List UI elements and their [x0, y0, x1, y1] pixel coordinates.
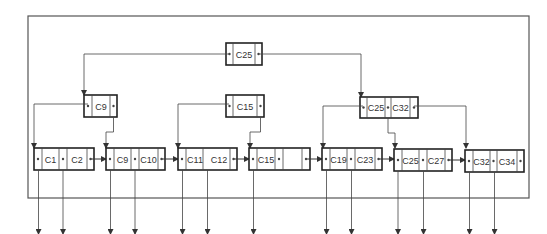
pointer-icon: [397, 159, 399, 161]
pointer-icon: [278, 158, 280, 160]
pointer-icon: [181, 158, 183, 160]
leaf-key: C10: [140, 155, 157, 165]
leaf-key: C15: [258, 155, 275, 165]
leaf-key: C32: [473, 157, 490, 167]
record-pointer-arrows: [39, 170, 495, 234]
leaf-key: C1: [45, 155, 57, 165]
pointer-icon: [519, 160, 521, 162]
edge: [178, 104, 229, 148]
pointer-icon: [259, 105, 261, 107]
pointer-icon: [112, 105, 114, 107]
leaf-key: C25: [402, 156, 419, 166]
pointer-icon: [87, 105, 89, 107]
leaf-key: C11: [187, 155, 203, 165]
root-right-edge: [259, 54, 361, 97]
root-key: C25: [236, 50, 253, 60]
edge: [323, 106, 363, 148]
node-key: C9: [95, 102, 107, 112]
leaf-key: C12: [211, 155, 228, 165]
pointer-icon: [305, 158, 307, 160]
pointer-icon: [468, 160, 470, 162]
root-left-edge: [84, 54, 229, 95]
internal-node-c25-c32: C25 C32: [360, 97, 418, 118]
pointer-icon: [134, 158, 136, 160]
leaf-key: C34: [499, 157, 516, 167]
b-plus-tree-diagram: C25 C9 C15 C25 C32: [0, 0, 547, 234]
edge: [250, 117, 261, 148]
leaf-node-2: C9 C10: [106, 148, 165, 170]
leaf-node-7: C32 C34: [465, 150, 524, 172]
edge: [106, 117, 114, 148]
leaf-node-4: C15: [249, 148, 310, 170]
pointer-icon: [362, 106, 364, 108]
pointer-icon: [387, 106, 389, 108]
pointer-icon: [252, 158, 254, 160]
leaf-node-6: C25 C27: [394, 149, 452, 171]
leaf-key: C23: [357, 155, 374, 165]
leaf-key: C27: [428, 156, 445, 166]
pointer-icon: [325, 158, 327, 160]
leaf-node-1: C1 C2: [34, 148, 94, 170]
edge: [34, 104, 88, 148]
leaf-key: C2: [71, 155, 83, 165]
leaf-key: C19: [330, 155, 347, 165]
edge: [388, 118, 395, 148]
pointer-icon: [228, 105, 230, 107]
pointer-icon: [62, 158, 64, 160]
leaf-node-3: C11 C12: [178, 148, 237, 170]
leaf-node-5: C19 C23: [322, 148, 382, 170]
node-key: C25: [368, 103, 385, 113]
pointer-icon: [492, 160, 494, 162]
leaf-key: C9: [117, 155, 129, 165]
root-node: C25: [226, 43, 262, 65]
pointer-icon: [422, 159, 424, 161]
pointer-icon: [109, 158, 111, 160]
node-key: C15: [237, 102, 254, 112]
internal-node-c15: C15: [226, 95, 264, 117]
node-key: C32: [392, 103, 409, 113]
pointer-icon: [37, 158, 39, 160]
pointer-icon: [350, 158, 352, 160]
edge: [414, 106, 466, 148]
internal-node-c9: C9: [84, 95, 117, 117]
pointer-icon: [413, 106, 415, 108]
